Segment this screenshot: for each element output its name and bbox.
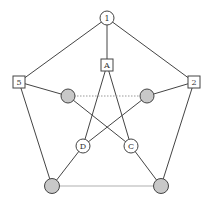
edge-1-5 (19, 18, 107, 82)
gray-node-bottom-right (154, 179, 169, 194)
edge-gL-C (68, 96, 131, 146)
edge-A-D (83, 65, 107, 146)
edge-2-gBR (161, 82, 194, 186)
label-5: 5 (16, 78, 21, 87)
edge-5-gL (19, 82, 68, 96)
edges (19, 18, 194, 186)
gray-node-right (140, 89, 154, 103)
edge-1-2 (107, 18, 194, 82)
label-A: A (103, 61, 110, 70)
label-1: 1 (104, 14, 109, 23)
edge-gR-D (83, 96, 147, 146)
edge-5-gBL (19, 82, 52, 186)
gray-node-bottom-left (45, 179, 60, 194)
graph-diagram: 1 A 5 2 D C (0, 0, 213, 203)
edge-A-C (107, 65, 131, 146)
label-C: C (128, 142, 134, 151)
label-2: 2 (191, 78, 196, 87)
label-D: D (80, 142, 86, 151)
gray-node-left (61, 89, 75, 103)
